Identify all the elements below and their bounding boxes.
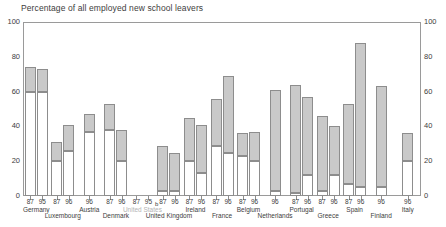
- bar-group-italy: [402, 22, 413, 196]
- bar-groups: [23, 22, 421, 196]
- bar-lower-segment: [51, 161, 62, 196]
- bar-upper-segment: [196, 125, 207, 174]
- bar-lower-segment: [376, 187, 387, 196]
- bar-upper-segment: [223, 76, 234, 153]
- bar-upper-segment: [184, 118, 195, 162]
- bar-ireland-87: [184, 118, 195, 196]
- bar-greece-96: [329, 126, 340, 196]
- bar-belgium-87: [237, 133, 248, 196]
- x-country-label-italy: Italy: [378, 207, 438, 214]
- bar-belgium-96: [249, 132, 260, 196]
- y-tick-label-20-right: 20: [424, 157, 446, 165]
- bar-france-96: [223, 76, 234, 196]
- bar-united-kingdom-87: [157, 146, 168, 196]
- bar-lower-segment: [355, 187, 366, 196]
- bar-group-portugal: [290, 22, 313, 196]
- x-country-label-luxembourg: Luxembourg: [33, 213, 93, 220]
- bar-lower-segment: [249, 161, 260, 196]
- bar-group-belgium: [237, 22, 260, 196]
- bar-upper-segment: [402, 133, 413, 161]
- y-tick-label-100-left: 100: [0, 18, 20, 26]
- y-tick-label-40-left: 40: [0, 122, 20, 130]
- bar-portugal-96: [302, 97, 313, 196]
- bar-united-kingdom-96: [169, 153, 180, 197]
- y-tick-label-40-right: 40: [424, 122, 446, 130]
- bar-group-spain: [343, 22, 366, 196]
- bar-finland-96: [376, 86, 387, 196]
- y-tick-label-60-left: 60: [0, 88, 20, 96]
- bar-group-netherlands: [270, 22, 281, 196]
- bar-spain-87: [343, 104, 354, 196]
- bar-upper-segment: [376, 86, 387, 187]
- bar-germany-95: [37, 69, 48, 196]
- bar-lower-segment: [302, 175, 313, 196]
- bar-upper-segment: [270, 90, 281, 191]
- x-year-label: 96: [372, 199, 390, 206]
- bar-group-united-kingdom: [157, 22, 180, 196]
- bar-lower-segment: [343, 184, 354, 196]
- bar-denmark-96: [116, 130, 127, 196]
- bar-group-germany: [25, 22, 48, 196]
- y-tick-label-80-right: 80: [424, 53, 446, 61]
- bar-upper-segment: [355, 43, 366, 187]
- bar-upper-segment: [169, 153, 180, 191]
- bar-group-austria: [84, 22, 95, 196]
- x-country-label-netherlands: Netherlands: [245, 213, 305, 220]
- bar-upper-segment: [343, 104, 354, 184]
- x-country-label-denmark: Denmark: [86, 213, 146, 220]
- x-year-label: 96: [266, 199, 284, 206]
- bar-group-united-states: [131, 22, 154, 196]
- bar-spain-96: [355, 43, 366, 196]
- bar-lower-segment: [237, 156, 248, 196]
- bar-upper-segment: [290, 85, 301, 193]
- bar-upper-segment: [211, 99, 222, 146]
- bar-lower-segment: [184, 161, 195, 196]
- bar-upper-segment: [116, 130, 127, 161]
- chart-container: Percentage of all employed new school le…: [0, 0, 446, 227]
- bar-lower-segment: [196, 173, 207, 196]
- bar-group-finland: [376, 22, 387, 196]
- bar-portugal-87: [290, 85, 301, 196]
- bar-lower-segment: [104, 130, 115, 196]
- bar-upper-segment: [329, 126, 340, 175]
- bar-upper-segment: [25, 67, 36, 91]
- bar-germany-87: [25, 67, 36, 196]
- bar-upper-segment: [249, 132, 260, 162]
- y-tick-label-20-left: 20: [0, 157, 20, 165]
- x-year-label: 96: [80, 199, 98, 206]
- bar-denmark-87: [104, 104, 115, 196]
- bar-lower-segment: [402, 161, 413, 196]
- x-year-label: 96: [246, 199, 264, 206]
- bar-upper-segment: [302, 97, 313, 175]
- bar-lower-segment: [223, 153, 234, 197]
- x-year-label: 96: [399, 199, 417, 206]
- bar-upper-segment: [51, 142, 62, 161]
- bar-upper-segment: [157, 146, 168, 191]
- y-tick-label-80-left: 80: [0, 53, 20, 61]
- bar-upper-segment: [63, 125, 74, 151]
- y-tick-label-100-right: 100: [424, 18, 446, 26]
- bar-austria-96: [84, 114, 95, 196]
- bar-lower-segment: [84, 132, 95, 196]
- bar-france-87: [211, 99, 222, 196]
- footnote-marker: b: [155, 201, 158, 207]
- bar-upper-segment: [317, 116, 328, 191]
- bar-lower-segment: [211, 146, 222, 196]
- bar-luxembourg-96: [63, 125, 74, 196]
- bar-upper-segment: [104, 104, 115, 130]
- bar-lower-segment: [116, 161, 127, 196]
- bar-group-luxembourg: [51, 22, 74, 196]
- bar-lower-segment: [37, 92, 48, 196]
- x-year-label: 96: [352, 199, 370, 206]
- x-country-label-united-kingdom: United Kingdom: [139, 213, 199, 220]
- bar-group-france: [211, 22, 234, 196]
- bar-group-ireland: [184, 22, 207, 196]
- bar-lower-segment: [63, 151, 74, 196]
- bar-upper-segment: [237, 133, 248, 156]
- x-country-label-greece: Greece: [298, 213, 358, 220]
- bar-lower-segment: [329, 175, 340, 196]
- y-tick-label-60-right: 60: [424, 88, 446, 96]
- bar-italy-96: [402, 133, 413, 196]
- bar-upper-segment: [37, 69, 48, 92]
- bar-upper-segment: [84, 114, 95, 131]
